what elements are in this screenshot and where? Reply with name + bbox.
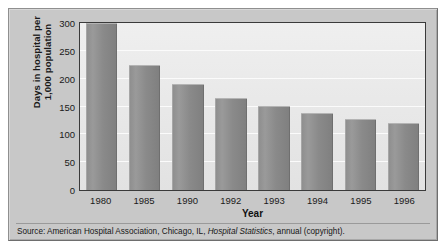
bar-slot-1995 — [339, 23, 382, 190]
bar-1990[interactable] — [172, 84, 203, 190]
bar-1980[interactable] — [86, 23, 117, 190]
x-tick-label-1993: 1993 — [253, 195, 296, 206]
source-note: Source: American Hospital Association, C… — [17, 227, 431, 236]
bar-slot-1985 — [123, 23, 166, 190]
y-tick-label-50: 50 — [49, 157, 75, 168]
bar-1996[interactable] — [388, 123, 419, 190]
x-axis-ticks: 19801985199019921993199419951996 — [79, 195, 426, 206]
bar-series — [80, 23, 425, 190]
chart-figure: Days in hospital per 1,000 population 05… — [0, 0, 446, 249]
chart-card: Days in hospital per 1,000 population 05… — [8, 8, 438, 241]
x-tick-label-1994: 1994 — [296, 195, 339, 206]
bar-slot-1992 — [209, 23, 252, 190]
bar-slot-1993 — [253, 23, 296, 190]
bar-1994[interactable] — [301, 113, 332, 190]
x-tick-label-1990: 1990 — [166, 195, 209, 206]
bar-slot-1980 — [80, 23, 123, 190]
y-axis-title-line-1: Days in hospital per — [31, 0, 42, 137]
x-tick-label-1985: 1985 — [122, 195, 165, 206]
y-tick-label-150: 150 — [49, 101, 75, 112]
bar-1995[interactable] — [345, 119, 376, 190]
y-tick-label-200: 200 — [49, 73, 75, 84]
y-tick-label-0: 0 — [49, 185, 75, 196]
x-tick-label-1992: 1992 — [209, 195, 252, 206]
x-tick-label-1996: 1996 — [383, 195, 426, 206]
source-prefix: Source: American Hospital Association, C… — [17, 227, 208, 236]
x-tick-label-1980: 1980 — [79, 195, 122, 206]
bar-slot-1990 — [166, 23, 209, 190]
x-tick-label-1995: 1995 — [339, 195, 382, 206]
x-axis-title: Year — [79, 208, 426, 219]
bar-1993[interactable] — [258, 106, 289, 190]
bar-slot-1994 — [296, 23, 339, 190]
source-divider — [16, 223, 430, 224]
y-tick-label-300: 300 — [49, 18, 75, 29]
bar-1985[interactable] — [129, 65, 160, 190]
bar-slot-1996 — [382, 23, 425, 190]
plot-area — [79, 22, 426, 191]
source-title: Hospital Statistics — [208, 227, 273, 236]
y-tick-label-100: 100 — [49, 129, 75, 140]
source-suffix: , annual (copyright). — [272, 227, 344, 236]
bar-1992[interactable] — [215, 98, 246, 190]
y-axis-ticks: 050100150200250300 — [47, 22, 75, 191]
y-tick-label-250: 250 — [49, 45, 75, 56]
